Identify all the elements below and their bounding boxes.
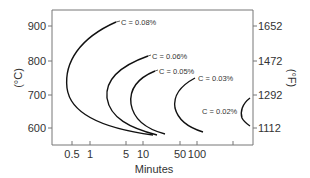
x-tick-100: 100 [188,148,206,160]
y-tick-900: 900 [28,20,46,32]
y-axis-title-right: (°F) [286,69,298,87]
curve-c005 [131,71,165,134]
y-tick-1112: 1112 [258,122,281,134]
label-c002: C = 0.02% [202,107,238,116]
x-tick-5: 5 [123,148,129,160]
y-ticks-left: 900 800 700 600 [28,20,52,134]
y-tick-1292: 1292 [258,89,282,101]
x-axis-title: Minutes [135,163,174,175]
y-axis-title-left: (°C) [12,68,24,88]
x-ticks: 0.5 1 5 10 50 100 [64,141,233,160]
label-c005: C = 0.05% [159,67,195,76]
curve-c006 [107,56,157,135]
x-tick-10: 10 [137,148,149,160]
x-tick-0.5: 0.5 [64,148,79,160]
label-c008: C = 0.08% [121,18,157,27]
y-tick-1652: 1652 [258,20,282,32]
y-ticks-right: 1652 1472 1292 1112 [253,20,282,134]
ttt-chart: 900 800 700 600 1652 1472 1292 1112 0.5 … [0,0,310,178]
x-tick-50: 50 [174,148,186,160]
y-tick-1472: 1472 [258,55,282,67]
curve-c008 [67,22,153,135]
curve-c002 [241,98,250,126]
y-tick-800: 800 [28,55,46,67]
y-tick-700: 700 [28,89,46,101]
y-tick-600: 600 [28,122,46,134]
x-tick-1: 1 [87,148,93,160]
label-c003: C = 0.03% [198,74,234,83]
label-c006: C = 0.06% [152,52,188,61]
curve-c003 [175,78,203,132]
